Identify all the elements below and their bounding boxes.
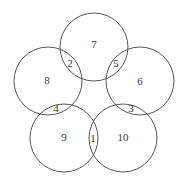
intersection-label: 5 [113, 57, 119, 69]
intersection-label: 4 [53, 102, 59, 114]
circle-label-bottom-right: 10 [118, 131, 130, 143]
diagram-svg: 78691025431 [0, 0, 183, 183]
circle-label-top: 7 [91, 38, 97, 50]
circle-label-right: 6 [137, 75, 143, 87]
circle-label-bottom-left: 9 [61, 131, 67, 143]
intersection-label: 1 [90, 132, 96, 144]
intersection-label: 3 [128, 102, 134, 114]
circle-label-left: 8 [44, 74, 50, 86]
intersection-label: 2 [67, 57, 73, 69]
venn-ring-diagram: 78691025431 [0, 0, 183, 183]
